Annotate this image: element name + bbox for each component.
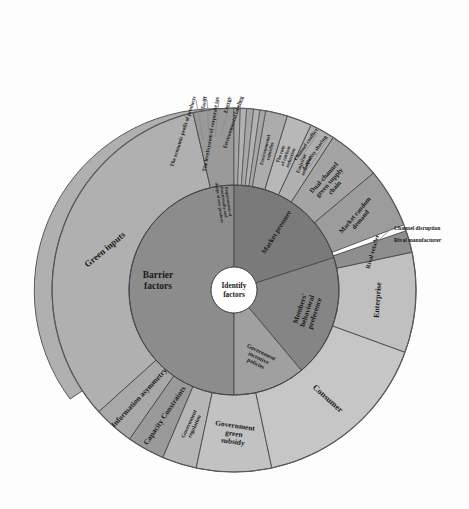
callout-right-1: Rival manufacturer [394,237,442,243]
callout-top-1: Tariff [199,96,208,110]
center-node[interactable]: Identify factors [211,267,257,313]
callout-right-0: Channel disruption [394,225,441,231]
ring1-label-0: Barrierfactors [143,270,174,291]
center-label-line1: Identify [221,281,246,290]
center-label-line2: factors [223,290,245,299]
sunburst-figure: BarrierfactorsMarket pressureMembers'beh… [0,0,469,509]
sunburst-svg: BarrierfactorsMarket pressureMembers'beh… [0,0,469,509]
